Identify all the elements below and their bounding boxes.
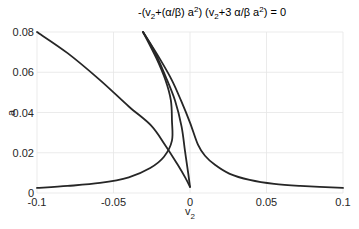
x-axis-label: v2 xyxy=(185,205,196,221)
x-tick-label: -0.05 xyxy=(101,196,126,208)
y-tick-label: 0.02 xyxy=(13,147,34,159)
x-tick-label: 0.05 xyxy=(256,196,277,208)
y-tick-label: 0 xyxy=(28,187,34,199)
title-part: ) = 0 xyxy=(264,6,286,18)
y-axis-label: a xyxy=(5,109,17,116)
y-tick-label: 0.06 xyxy=(13,66,34,78)
title-part: -(v xyxy=(138,6,151,18)
title-part: ) (v xyxy=(198,6,214,18)
chart: -0.1-0.0500.050.1 00.020.040.060.08 -(v2… xyxy=(0,0,359,229)
y-tick-label: 0.08 xyxy=(13,26,34,38)
title-part: +(α/β) a xyxy=(155,6,195,18)
chart-title: -(v2+(α/β) a2) (v2+3 α/β a2) = 0 xyxy=(138,5,286,21)
title-part: +3 α/β a xyxy=(219,6,260,18)
x-axis-label-subscript: 2 xyxy=(191,212,196,221)
x-tick-label: 0.1 xyxy=(335,196,350,208)
